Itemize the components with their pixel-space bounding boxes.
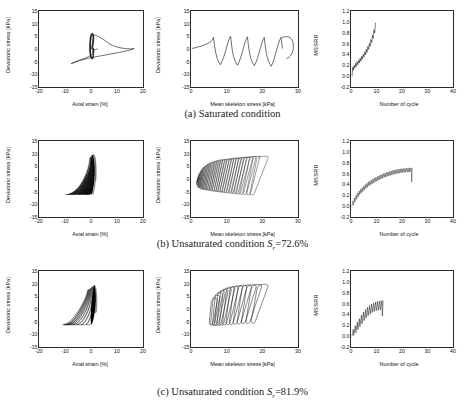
y-tick: 0.0: [342, 203, 349, 209]
y-tick: 10: [32, 281, 38, 287]
figure-cyclic-triaxial-results: Deviatoric stress [kPa] 15 10 5 0 -5 -10…: [0, 0, 465, 408]
y-axis-label: Deviatoric stress [kPa]: [1, 0, 15, 90]
plot-b-mssrr: MSSRR 1.2 1.0 0.8 0.6 0.4 0.2 0.0 -0.2 0…: [310, 130, 462, 242]
y-tick: 10: [32, 151, 38, 157]
y-tick: -0.2: [341, 84, 350, 90]
y-tick: 1.2: [342, 268, 349, 274]
x-axis-label: Number of cycle: [340, 361, 458, 367]
x-axis-label: Mean skeleton stress [kPa]: [182, 231, 303, 237]
y-tick: 0.2: [342, 62, 349, 68]
y-tick: 0.4: [342, 181, 349, 187]
y-tick: 10: [184, 151, 190, 157]
y-tick: 0.8: [342, 30, 349, 36]
caption-a: (a) Saturated condition: [0, 108, 465, 119]
y-tick: 5: [187, 163, 190, 169]
data-curve: [351, 271, 453, 347]
y-tick: 1.2: [342, 8, 349, 14]
y-tick: 15: [32, 8, 38, 14]
caption-text: Unsaturated condition: [172, 238, 265, 249]
figure-row-a: Deviatoric stress [kPa] 15 10 5 0 -5 -10…: [0, 0, 465, 130]
y-axis-label: Deviatoric stress [kPa]: [1, 260, 15, 350]
y-tick: 0.2: [342, 192, 349, 198]
y-tick: 1.0: [342, 19, 349, 25]
data-curve: [39, 141, 143, 217]
x-tick: 20: [399, 88, 405, 94]
data-curve: [351, 11, 453, 87]
x-tick: 10: [374, 348, 380, 354]
y-tick: 0: [35, 306, 38, 312]
y-axis-label: Deviatoric stress [kPa]: [1, 130, 15, 220]
x-axis-label: Axial strain [%]: [32, 101, 148, 107]
x-tick: 30: [295, 218, 301, 224]
x-axis-label: Axial strain [%]: [32, 361, 148, 367]
x-tick: 0: [190, 218, 193, 224]
plot-a-stress-path: Deviatoric stress [kPa] 15 10 5 0 -5 -10…: [152, 0, 307, 112]
y-tick: 0.4: [342, 311, 349, 317]
x-tick: 10: [224, 218, 230, 224]
y-tick: -5: [185, 59, 190, 65]
y-tick: 5: [35, 33, 38, 39]
x-axis-label: Number of cycle: [340, 231, 458, 237]
y-tick: -5: [185, 319, 190, 325]
y-tick: -15: [182, 344, 190, 350]
x-tick: -10: [61, 218, 69, 224]
x-tick: 0: [350, 348, 353, 354]
plot-area: 1.2 1.0 0.8 0.6 0.4 0.2 0.0 -0.2 0 10 20…: [350, 10, 454, 88]
plot-area: 15 10 5 0 -5 -10 -15 0 10 20 30: [190, 270, 299, 348]
y-tick: 15: [32, 138, 38, 144]
x-tick: 0: [90, 218, 93, 224]
x-tick: 20: [259, 218, 265, 224]
x-tick: 0: [90, 88, 93, 94]
data-curve: [39, 11, 143, 87]
x-tick: -10: [61, 88, 69, 94]
x-tick: 0: [350, 88, 353, 94]
x-tick: 10: [224, 348, 230, 354]
y-tick: 0.6: [342, 171, 349, 177]
y-tick: 5: [35, 293, 38, 299]
caption-value: =72.6%: [275, 238, 308, 249]
y-tick: 0: [35, 46, 38, 52]
y-tick: 10: [32, 21, 38, 27]
y-tick: 0.6: [342, 301, 349, 307]
y-tick: 5: [187, 33, 190, 39]
x-tick: 40: [450, 348, 456, 354]
x-tick: 40: [450, 218, 456, 224]
x-tick: 30: [295, 348, 301, 354]
y-tick: 0.6: [342, 41, 349, 47]
x-tick: 30: [425, 348, 431, 354]
plot-area: 1.2 1.0 0.8 0.6 0.4 0.2 0.0 -0.2 0 10 20…: [350, 270, 454, 348]
plot-area: 15 10 5 0 -5 -10 -15 -20 -10 0 10 20: [38, 140, 144, 218]
plot-c-mssrr: MSSRR 1.2 1.0 0.8 0.6 0.4 0.2 0.0 -0.2 0…: [310, 260, 462, 372]
x-tick: 30: [425, 88, 431, 94]
y-tick: 5: [35, 163, 38, 169]
x-tick: 40: [450, 88, 456, 94]
y-tick: 0: [187, 46, 190, 52]
y-tick: 0.8: [342, 290, 349, 296]
x-tick: 10: [114, 348, 120, 354]
plot-a-mssrr: MSSRR 1.2 1.0 0.8 0.6 0.4 0.2 0.0 -0.2 0…: [310, 0, 462, 112]
y-tick: -10: [30, 71, 38, 77]
plot-c-axial-deviatoric: Deviatoric stress [kPa] 15 10 5 0 -5 -10…: [2, 260, 152, 372]
plot-area: 15 10 5 0 -5 -10 -15 0 10 20 30: [190, 10, 299, 88]
data-curve: [191, 11, 298, 87]
plot-area: 15 10 5 0 -5 -10 -15 -20 -10 0 10 20: [38, 270, 144, 348]
x-tick: 30: [295, 88, 301, 94]
plot-area: 15 10 5 0 -5 -10 -15 -20 -10 0 10 20: [38, 10, 144, 88]
x-tick: 20: [399, 218, 405, 224]
x-axis-label: Axial strain [%]: [32, 231, 148, 237]
y-axis-label: Deviatoric stress [kPa]: [151, 260, 165, 350]
x-axis-label: Mean skeleton stress [kPa]: [182, 361, 303, 367]
data-curve: [191, 271, 298, 347]
y-tick: 0: [187, 306, 190, 312]
caption-label: (c): [157, 386, 169, 397]
y-tick: 10: [184, 21, 190, 27]
y-axis-label: Deviatoric stress [kPa]: [151, 130, 165, 220]
y-tick: -5: [185, 189, 190, 195]
x-tick: 0: [190, 348, 193, 354]
y-tick: 1.0: [342, 279, 349, 285]
x-tick: 10: [374, 88, 380, 94]
x-tick: 20: [140, 218, 146, 224]
y-tick: -10: [182, 331, 190, 337]
caption-c: (c) Unsaturated condition Sr=81.9%: [0, 386, 465, 400]
y-tick: 0.4: [342, 51, 349, 57]
